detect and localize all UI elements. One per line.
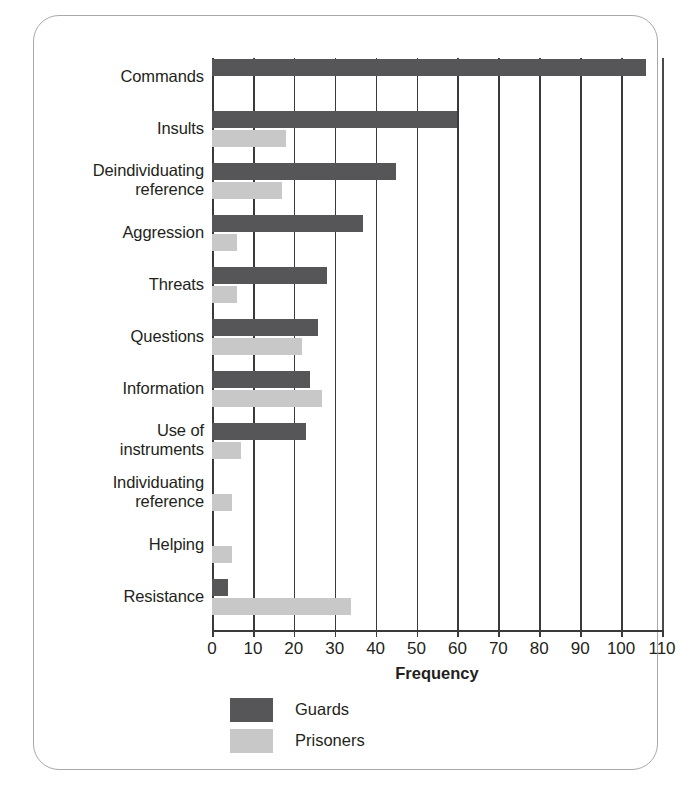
category-axis-labels: CommandsInsultsDeindividuatingreferenceA…	[74, 58, 204, 630]
bar-row	[212, 475, 662, 527]
category-label-line: reference	[72, 492, 204, 511]
category-label-insults: Insults	[72, 119, 204, 138]
x-tick-70	[498, 630, 500, 637]
x-axis-title: Frequency	[212, 664, 662, 683]
category-label-line: Deindividuating	[72, 161, 204, 180]
bar-prisoners-questions	[212, 338, 302, 355]
x-tick-label-80: 80	[530, 638, 549, 660]
x-tick-50	[417, 630, 419, 637]
bar-guards-aggression	[212, 215, 363, 232]
bar-prisoners-individuating-reference	[212, 494, 232, 511]
bar-guards-questions	[212, 319, 318, 336]
bar-row	[212, 59, 662, 111]
category-label-use-of-instruments: Use ofinstruments	[72, 421, 204, 459]
category-label-line: Information	[72, 379, 204, 398]
x-axis-line	[212, 630, 664, 632]
x-tick-label-50: 50	[407, 638, 426, 660]
bar-guards-use-of-instruments	[212, 423, 306, 440]
category-label-questions: Questions	[72, 327, 204, 346]
category-label-individuating-reference: Individuatingreference	[72, 473, 204, 511]
legend-label: Guards	[295, 700, 349, 719]
bar-guards-commands	[212, 59, 646, 76]
legend-swatch-prisoners	[230, 729, 273, 753]
x-tick-90	[580, 630, 582, 637]
x-tick-label-30: 30	[325, 638, 344, 660]
figure-frame: CommandsInsultsDeindividuatingreferenceA…	[33, 15, 658, 770]
x-tick-0	[212, 630, 214, 637]
bar-guards-resistance	[212, 579, 228, 596]
legend-item-guards: Guards	[230, 694, 490, 725]
bar-guards-information	[212, 371, 310, 388]
bar-row	[212, 579, 662, 631]
chart-plot-area	[212, 58, 662, 630]
category-label-aggression: Aggression	[72, 223, 204, 242]
category-label-line: Aggression	[72, 223, 204, 242]
category-label-line: Insults	[72, 119, 204, 138]
x-tick-label-90: 90	[571, 638, 590, 660]
bar-guards-threats	[212, 267, 327, 284]
category-label-line: Questions	[72, 327, 204, 346]
legend-item-prisoners: Prisoners	[230, 725, 490, 756]
x-tick-label-70: 70	[489, 638, 508, 660]
x-tick-label-10: 10	[243, 638, 262, 660]
bar-prisoners-information	[212, 390, 322, 407]
x-tick-60	[457, 630, 459, 637]
bar-prisoners-helping	[212, 546, 232, 563]
category-label-line: Helping	[72, 535, 204, 554]
x-tick-label-110: 110	[648, 638, 675, 660]
category-label-information: Information	[72, 379, 204, 398]
bar-row	[212, 215, 662, 267]
x-tick-80	[539, 630, 541, 637]
x-tick-100	[621, 630, 623, 637]
x-tick-20	[294, 630, 296, 637]
bar-row	[212, 423, 662, 475]
category-label-line: instruments	[72, 440, 204, 459]
legend-swatch-guards	[230, 698, 273, 722]
x-tick-30	[335, 630, 337, 637]
x-tick-label-0: 0	[207, 638, 216, 660]
bar-prisoners-use-of-instruments	[212, 442, 241, 459]
chart-legend: GuardsPrisoners	[230, 694, 490, 756]
bar-guards-insults	[212, 111, 457, 128]
category-label-commands: Commands	[72, 67, 204, 86]
category-label-helping: Helping	[72, 535, 204, 554]
category-label-line: Resistance	[72, 587, 204, 606]
x-tick-10	[253, 630, 255, 637]
bar-prisoners-deindividuating-reference	[212, 182, 282, 199]
caption-remnant	[55, 782, 615, 798]
bar-prisoners-resistance	[212, 598, 351, 615]
category-label-line: Use of	[72, 421, 204, 440]
gridline-110	[662, 58, 664, 630]
bar-row	[212, 267, 662, 319]
x-tick-label-60: 60	[448, 638, 467, 660]
bar-guards-deindividuating-reference	[212, 163, 396, 180]
category-label-threats: Threats	[72, 275, 204, 294]
category-label-deindividuating-reference: Deindividuatingreference	[72, 161, 204, 199]
category-label-line: Commands	[72, 67, 204, 86]
bar-row	[212, 527, 662, 579]
bar-row	[212, 319, 662, 371]
x-axis-tick-labels: 0102030405060708090100110	[34, 638, 692, 664]
bar-rows	[212, 58, 662, 630]
bar-prisoners-aggression	[212, 234, 237, 251]
x-tick-label-100: 100	[607, 638, 635, 660]
x-tick-40	[376, 630, 378, 637]
category-label-line: Threats	[72, 275, 204, 294]
bar-prisoners-insults	[212, 130, 286, 147]
x-tick-label-40: 40	[366, 638, 385, 660]
x-tick-110	[662, 630, 664, 637]
category-label-resistance: Resistance	[72, 587, 204, 606]
category-label-line: Individuating	[72, 473, 204, 492]
category-label-line: reference	[72, 180, 204, 199]
bar-row	[212, 163, 662, 215]
bar-row	[212, 371, 662, 423]
legend-label: Prisoners	[295, 731, 365, 750]
x-tick-label-20: 20	[284, 638, 303, 660]
bar-row	[212, 111, 662, 163]
bar-prisoners-threats	[212, 286, 237, 303]
